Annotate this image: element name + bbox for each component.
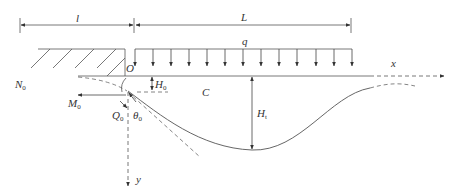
tangent-line-theta (128, 92, 200, 157)
fixed-support-hatch (31, 49, 125, 76)
label-Ht-sub: t (265, 113, 267, 121)
label-theta0-sub: 0 (138, 115, 142, 123)
label-q: q (242, 36, 248, 47)
label-theta0: θ0 (133, 110, 142, 123)
distributed-load-q (135, 49, 352, 66)
label-H0-sub: 0 (163, 84, 167, 92)
label-M0-main: M (68, 97, 77, 109)
tangent-extension-left (78, 77, 127, 91)
label-C: C (202, 87, 209, 98)
deflection-curve-dashed-end (370, 84, 415, 88)
label-O: O (126, 63, 134, 74)
mechanics-diagram: l L q x O C y N0 M0 Q0 θ0 H0 Ht (0, 0, 455, 194)
deflection-curve (128, 88, 370, 150)
label-L: L (241, 12, 247, 23)
label-Ht: Ht (257, 108, 267, 121)
label-M0: M0 (68, 98, 81, 111)
shear-Q0-arrow (120, 101, 127, 108)
label-H0: H0 (155, 79, 166, 92)
label-l: l (76, 13, 79, 24)
label-N0: N0 (15, 79, 26, 92)
label-H0-main: H (155, 78, 163, 90)
label-Q0-sub: 0 (120, 115, 124, 123)
label-y: y (136, 174, 141, 185)
label-Ht-main: H (257, 107, 265, 119)
label-M0-sub: 0 (77, 103, 81, 111)
label-x: x (391, 58, 396, 69)
label-Q0-main: Q (112, 109, 120, 121)
label-N0-sub: 0 (22, 84, 26, 92)
label-Q0: Q0 (112, 110, 123, 123)
